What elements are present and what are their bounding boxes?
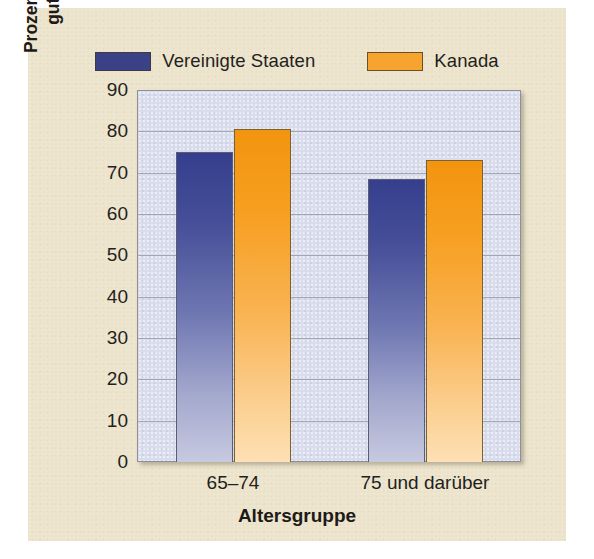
y-axis-title-line-2: gut bis hervorragend einstufen [42, 0, 64, 25]
bar-ca-group-1 [234, 129, 291, 462]
legend-label-kanada: Kanada [434, 50, 498, 72]
chart-legend: Vereinigte Staaten Kanada [28, 50, 566, 72]
x-tick-label-2: 75 und darüber [361, 472, 490, 494]
legend-item-kanada: Kanada [367, 50, 498, 72]
legend-item-vereinigte-staaten: Vereinigte Staaten [95, 50, 315, 72]
legend-swatch-kanada [367, 52, 423, 71]
y-tick-label-70: 70 [107, 162, 128, 184]
y-tick-label-20: 20 [107, 368, 128, 390]
y-tick-label-90: 90 [107, 79, 128, 101]
y-axis-title: Prozent derer, die ihre Gesundheit als g… [20, 0, 66, 86]
y-tick-label-40: 40 [107, 286, 128, 308]
plot-wrapper: 0102030405060708090 65–7475 und darüber [137, 90, 521, 462]
legend-label-vereinigte-staaten: Vereinigte Staaten [162, 50, 315, 72]
bar-us-group-1 [176, 152, 233, 462]
y-tick-label-60: 60 [107, 203, 128, 225]
y-axis-title-line-1: Prozent derer, die ihre Gesundheit als [20, 0, 42, 53]
x-tick-label-1: 65–74 [207, 472, 260, 494]
y-tick-label-10: 10 [107, 410, 128, 432]
y-tick-label-0: 0 [117, 451, 128, 473]
y-tick-label-30: 30 [107, 327, 128, 349]
legend-swatch-vereinigte-staaten [95, 52, 151, 71]
bar-ca-group-2 [426, 160, 483, 462]
y-tick-label-50: 50 [107, 244, 128, 266]
y-tick-label-80: 80 [107, 120, 128, 142]
bar-us-group-2 [368, 179, 425, 462]
x-axis-title: Altersgruppe [28, 505, 566, 527]
gridline-80 [137, 131, 521, 132]
chart-figure: Vereinigte Staaten Kanada Prozent derer,… [28, 8, 566, 541]
